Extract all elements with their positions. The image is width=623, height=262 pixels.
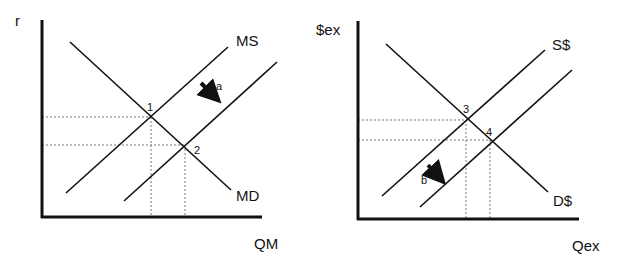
money-market-diagram: r QM MS MD 1 2 a xyxy=(15,12,278,252)
diagram-canvas: r QM MS MD 1 2 a $ex Qex S$ D$ 3 4 b xyxy=(0,0,623,262)
equilibrium-label-4: 4 xyxy=(486,126,492,138)
s-shifted-curve xyxy=(420,70,572,207)
y-axis-label: r xyxy=(15,12,20,29)
x-axis-label: Qex xyxy=(572,237,600,254)
ms-curve xyxy=(66,47,228,193)
shift-arrow-icon xyxy=(428,165,438,176)
shift-arrow-label: b xyxy=(421,174,427,186)
equilibrium-label-2: 2 xyxy=(194,144,200,156)
ms-shifted-curve xyxy=(124,62,277,201)
s-curve xyxy=(382,50,545,196)
x-axis-label: QM xyxy=(254,235,278,252)
shift-arrow-label: a xyxy=(216,80,223,92)
fx-market-diagram: $ex Qex S$ D$ 3 4 b xyxy=(316,21,600,254)
equilibrium-label-3: 3 xyxy=(463,103,469,115)
y-axis-label: $ex xyxy=(316,21,341,38)
ms-label: MS xyxy=(236,32,259,49)
d-label: D$ xyxy=(553,192,573,209)
equilibrium-label-1: 1 xyxy=(147,101,153,113)
s-label: S$ xyxy=(552,36,571,53)
md-label: MD xyxy=(236,187,259,204)
shift-arrow-icon xyxy=(201,83,213,95)
